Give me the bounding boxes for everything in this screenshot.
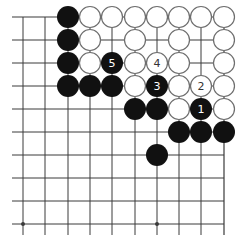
black-stone: [57, 52, 79, 74]
black-stone: [57, 29, 79, 51]
white-stone: [80, 53, 101, 74]
black-stone-disc: [57, 52, 79, 74]
white-stone: [80, 7, 101, 28]
white-stone: [214, 53, 235, 74]
white-stone-disc: [169, 99, 190, 120]
white-stone-disc: [80, 30, 101, 51]
white-stone: [125, 30, 146, 51]
move-number-label: 2: [198, 80, 205, 93]
star-point: [155, 222, 159, 226]
move-number-label: 3: [154, 80, 161, 93]
white-stone-disc: [147, 7, 168, 28]
white-stone: [169, 7, 190, 28]
white-stone: [125, 7, 146, 28]
white-stone: [214, 30, 235, 51]
black-stone-disc: [57, 6, 79, 28]
white-stone: 2: [191, 76, 212, 97]
black-stone: [124, 98, 146, 120]
white-stone: [191, 7, 212, 28]
star-point: [21, 222, 25, 226]
black-stone-disc: [57, 29, 79, 51]
move-number-label: 4: [154, 57, 161, 70]
black-stone: [101, 75, 123, 97]
black-stone: [57, 75, 79, 97]
move-number-label: 1: [198, 103, 205, 116]
black-stone: 3: [146, 75, 168, 97]
black-stone: [213, 121, 235, 143]
white-stone: [125, 53, 146, 74]
white-stone: [147, 7, 168, 28]
white-stone: [169, 53, 190, 74]
white-stone: [102, 7, 123, 28]
black-stone-disc: [190, 121, 212, 143]
black-stone-disc: [168, 121, 190, 143]
black-stone: 1: [190, 98, 212, 120]
white-stone: [214, 76, 235, 97]
black-stone-disc: [124, 98, 146, 120]
black-stone: [190, 121, 212, 143]
black-stone: 5: [101, 52, 123, 74]
white-stone: [214, 99, 235, 120]
white-stone-disc: [169, 76, 190, 97]
white-stone: 4: [147, 53, 168, 74]
black-stone-disc: [57, 75, 79, 97]
white-stone-disc: [214, 76, 235, 97]
black-stone-disc: [79, 75, 101, 97]
go-board: 54321: [0, 0, 241, 243]
white-stone: [214, 7, 235, 28]
black-stone: [79, 75, 101, 97]
white-stone-disc: [125, 53, 146, 74]
white-stone-disc: [191, 7, 212, 28]
white-stone: [125, 76, 146, 97]
black-stone: [146, 98, 168, 120]
white-stone-disc: [169, 30, 190, 51]
white-stone-disc: [80, 53, 101, 74]
black-stone: [57, 6, 79, 28]
white-stone-disc: [169, 7, 190, 28]
white-stone-disc: [214, 99, 235, 120]
white-stone-disc: [125, 7, 146, 28]
white-stone-disc: [80, 7, 101, 28]
black-stone-disc: [101, 75, 123, 97]
black-stone-disc: [146, 98, 168, 120]
white-stone-disc: [125, 30, 146, 51]
white-stone: [169, 76, 190, 97]
white-stone: [80, 30, 101, 51]
white-stone: [169, 99, 190, 120]
white-stone-disc: [169, 53, 190, 74]
black-stone: [168, 121, 190, 143]
move-number-label: 5: [109, 57, 116, 70]
white-stone-disc: [214, 53, 235, 74]
black-stone-disc: [146, 144, 168, 166]
black-stone-disc: [213, 121, 235, 143]
white-stone-disc: [102, 7, 123, 28]
black-stone: [146, 144, 168, 166]
white-stone-disc: [214, 30, 235, 51]
white-stone-disc: [214, 7, 235, 28]
white-stone-disc: [125, 76, 146, 97]
stones: 54321: [57, 6, 235, 166]
white-stone: [169, 30, 190, 51]
